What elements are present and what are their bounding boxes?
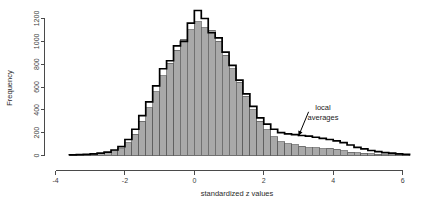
histogram-bar <box>375 154 382 155</box>
histogram-bar <box>312 148 319 156</box>
histogram-bar <box>153 92 160 156</box>
x-axis: -4-20246 <box>52 171 404 184</box>
annotation-arrow-icon <box>298 112 308 136</box>
histogram-bar <box>298 146 305 155</box>
y-axis-tick-label: 1000 <box>33 33 40 49</box>
histogram-bar <box>271 137 278 156</box>
x-axis-tick-label: 4 <box>331 177 335 184</box>
histogram-bar <box>285 144 292 156</box>
y-axis-tick-label: 400 <box>33 104 40 116</box>
histogram-bar <box>250 110 257 156</box>
histogram-bar <box>236 82 243 155</box>
histogram-bar <box>319 149 326 156</box>
histogram-bar <box>139 121 146 155</box>
histogram-bar <box>132 134 139 155</box>
histogram-bar <box>305 148 312 156</box>
x-axis-tick-label: -2 <box>122 177 128 184</box>
histogram-bar <box>146 108 153 156</box>
histogram-bars <box>69 22 409 156</box>
histogram-bar <box>125 143 132 156</box>
annotation-local-averages-line2: averages <box>308 113 339 122</box>
x-axis-tick-label: 6 <box>401 177 405 184</box>
histogram-bar <box>354 153 361 156</box>
histogram-bar <box>208 30 215 155</box>
y-axis-tick-label: 0 <box>33 153 40 157</box>
annotation-local-averages-line1: local <box>315 103 331 112</box>
histogram-bar <box>118 149 125 156</box>
histogram-bar <box>167 63 174 155</box>
histogram-figure: -4-20246 020040060080010001200 standardi… <box>0 0 434 204</box>
histogram-bar <box>389 155 396 156</box>
histogram-bar <box>292 145 299 156</box>
x-axis-title: standardized z values <box>201 189 274 198</box>
histogram-bar <box>160 76 167 156</box>
histogram-bar <box>257 121 264 155</box>
histogram-bar <box>347 152 354 155</box>
histogram-bar <box>201 28 208 156</box>
histogram-bar <box>340 151 347 156</box>
histogram-bar <box>187 30 194 156</box>
histogram-bar <box>264 130 271 156</box>
histogram-bar <box>194 22 201 156</box>
y-axis: 020040060080010001200 <box>33 11 44 158</box>
y-axis-tick-label: 800 <box>33 58 40 70</box>
histogram-bar <box>326 148 333 155</box>
y-axis-title: Frequency <box>5 70 14 106</box>
histogram-bar <box>174 50 181 155</box>
chart-canvas: -4-20246 020040060080010001200 standardi… <box>0 0 434 204</box>
histogram-bar <box>180 39 187 155</box>
histogram-bar <box>396 155 403 156</box>
histogram-bar <box>215 41 222 155</box>
y-axis-tick-label: 200 <box>33 127 40 139</box>
histogram-bar <box>333 149 340 155</box>
histogram-bar <box>229 69 236 156</box>
histogram-bar <box>368 154 375 156</box>
histogram-bar <box>243 96 250 155</box>
x-axis-tick-label: 2 <box>262 177 266 184</box>
histogram-bar <box>104 153 111 156</box>
x-axis-tick-label: -4 <box>52 177 58 184</box>
histogram-bar <box>111 151 118 156</box>
x-axis-tick-label: 0 <box>192 177 196 184</box>
histogram-bar <box>278 142 285 156</box>
histogram-bar <box>222 55 229 155</box>
histogram-bar <box>382 155 389 156</box>
histogram-bar <box>361 153 368 155</box>
y-axis-tick-label: 600 <box>33 81 40 93</box>
y-axis-tick-label: 1200 <box>33 11 40 27</box>
